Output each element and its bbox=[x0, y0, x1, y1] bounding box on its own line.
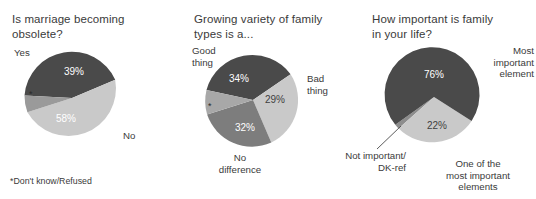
chart-title-2: Growing variety of family types is a... bbox=[194, 12, 359, 41]
slice-label-no-difference: No difference bbox=[202, 152, 278, 175]
footnote: *Don't know/Refused bbox=[10, 176, 92, 186]
pie-value-one-of-most-important: 22% bbox=[427, 120, 447, 131]
pie-chart-family-types: 34% 29% 32% bbox=[205, 52, 301, 148]
slice-label-bad-thing: Bad thing bbox=[307, 73, 328, 96]
pie-value-good-thing: 34% bbox=[229, 73, 249, 84]
pie-chart-family-importance: 76% 22% bbox=[385, 48, 485, 150]
pie-chart-marriage-obsolete: 39% 58% bbox=[24, 50, 120, 146]
slice-label-no: No bbox=[123, 130, 135, 142]
chart-panel-family-importance: How important is family in your life? Mo… bbox=[356, 0, 536, 199]
pie-value-most-important: 76% bbox=[424, 69, 444, 80]
pie-value-no-difference: 32% bbox=[235, 122, 255, 133]
pie-value-no: 58% bbox=[56, 113, 76, 124]
slice-label-one-of-most-important: One of the most important elements bbox=[428, 158, 528, 193]
chart-title-3: How important is family in your life? bbox=[372, 12, 536, 41]
asterisk-marker-2: * bbox=[208, 102, 212, 111]
chart-panel-marriage-obsolete: Is marriage becoming obsolete? Yes No 39… bbox=[0, 0, 180, 199]
asterisk-marker-1: * bbox=[29, 90, 33, 99]
leader-line-not-important bbox=[377, 126, 401, 149]
slice-label-not-important: Not important/ DK-ref bbox=[320, 150, 406, 173]
pie-value-yes: 39% bbox=[64, 66, 84, 77]
pie-value-bad-thing: 29% bbox=[265, 94, 285, 105]
chart-title-1: Is marriage becoming obsolete? bbox=[12, 12, 172, 41]
